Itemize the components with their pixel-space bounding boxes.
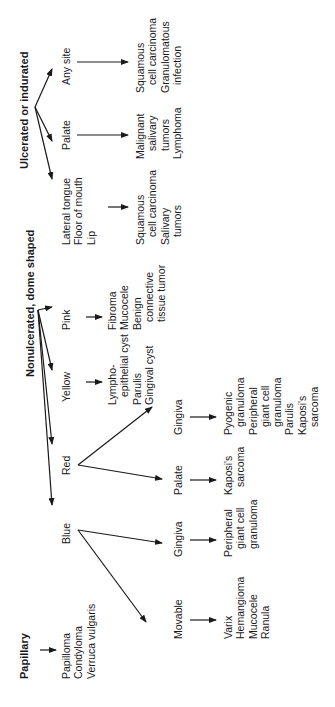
diagnosis-item: Fibroma bbox=[106, 265, 118, 330]
pink-category: Pink bbox=[60, 310, 72, 330]
movable-subcategory: Movable bbox=[172, 599, 184, 639]
diagnosis-item: Peripheral bbox=[247, 377, 259, 435]
any-site-diagnosis-list: Squamous cell carcinoma Granulomatous in… bbox=[134, 18, 183, 93]
diagnosis-item: Benign bbox=[131, 265, 143, 330]
diagnosis-item: Granulomatous bbox=[159, 18, 171, 93]
diagnosis-item: Pyogenic bbox=[222, 377, 234, 435]
diagnosis-item: Lymphoma bbox=[171, 107, 183, 159]
ulcerated-heading: Ulcerated or indurated bbox=[18, 52, 30, 169]
diagnosis-item: Verruca vulgaris bbox=[85, 604, 97, 679]
red-palate-diagnosis-list: Kaposi's sarcoma bbox=[222, 447, 247, 495]
red-gingiva-subcategory: Gingiva bbox=[172, 399, 184, 435]
papillary-heading: Papillary bbox=[18, 633, 30, 679]
site-item: Lip bbox=[85, 177, 97, 245]
diagnosis-item: Mucocele bbox=[118, 265, 130, 330]
diagnosis-item: Malignant bbox=[134, 107, 146, 159]
diagnosis-item: Lympho- bbox=[106, 334, 118, 405]
diagnosis-item: tissue tumor bbox=[155, 265, 167, 330]
nonulcerated-heading: Nonulcerated, dome shaped bbox=[24, 230, 36, 377]
lateral-tongue-diagnosis-list: Squamous cell carcinoma Salivary tumors bbox=[134, 170, 183, 245]
diagnosis-item: Gingival cyst bbox=[143, 334, 155, 405]
diagnosis-item: Parulis bbox=[283, 377, 295, 435]
diagnosis-item: cell carcinoma bbox=[146, 170, 158, 245]
blue-gingiva-diagnosis-list: Peripheral giant cell granuloma bbox=[222, 499, 259, 557]
ulcerated-palate-site: Palate bbox=[60, 120, 72, 150]
diagnosis-item: Varix bbox=[222, 577, 234, 639]
diagnosis-item: granuloma bbox=[234, 377, 246, 435]
diagnosis-item: sarcoma bbox=[308, 377, 320, 435]
diagnosis-item: Hemangioma bbox=[234, 577, 246, 639]
diagnosis-item: salivary bbox=[146, 107, 158, 159]
differential-diagnosis-flowchart: Papillary Papilloma Condyloma Verruca vu… bbox=[0, 0, 335, 707]
diagnosis-item: Ranula bbox=[259, 577, 271, 639]
diagnosis-item: Condyloma bbox=[72, 604, 84, 679]
blue-gingiva-subcategory: Gingiva bbox=[172, 521, 184, 557]
diagnosis-item: infection bbox=[171, 18, 183, 93]
blue-category: Blue bbox=[60, 523, 72, 544]
pink-diagnosis-list: Fibroma Mucocele Benign connective tissu… bbox=[106, 265, 167, 330]
diagnosis-item: cell carcinoma bbox=[146, 18, 158, 93]
diagnosis-item: Squamous bbox=[134, 18, 146, 93]
red-gingiva-diagnosis-list: Pyogenic granuloma Peripheral giant cell… bbox=[222, 377, 320, 435]
movable-diagnosis-list: Varix Hemangioma Mucocele Ranula bbox=[222, 577, 271, 639]
ulcerated-palate-diagnosis-list: Malignant salivary tumors Lymphoma bbox=[134, 107, 183, 159]
diagnosis-item: giant cell bbox=[259, 377, 271, 435]
diagnosis-item: Parulis bbox=[131, 334, 143, 405]
diagnosis-item: connective bbox=[143, 265, 155, 330]
any-site: Any site bbox=[60, 48, 72, 85]
site-item: Floor of mouth bbox=[72, 177, 84, 245]
site-item: Lateral tongue bbox=[60, 177, 72, 245]
diagnosis-item: giant cell bbox=[234, 499, 246, 557]
diagnosis-item: Mucocele bbox=[247, 577, 259, 639]
diagnosis-item: tumors bbox=[159, 107, 171, 159]
red-category: Red bbox=[60, 456, 72, 475]
diagnosis-item: epithelial cyst bbox=[118, 334, 130, 405]
diagnosis-item: Papilloma bbox=[60, 604, 72, 679]
diagnosis-item: Salivary bbox=[159, 170, 171, 245]
connector-arrows bbox=[0, 0, 335, 707]
diagnosis-item: Kaposi's bbox=[296, 377, 308, 435]
diagnosis-item: granuloma bbox=[271, 377, 283, 435]
diagnosis-item: granuloma bbox=[247, 499, 259, 557]
diagnosis-item: Squamous bbox=[134, 170, 146, 245]
yellow-diagnosis-list: Lympho- epithelial cyst Parulis Gingival… bbox=[106, 334, 155, 405]
papillary-diagnosis-list: Papilloma Condyloma Verruca vulgaris bbox=[60, 604, 97, 679]
red-palate-subcategory: Palate bbox=[172, 465, 184, 495]
diagnosis-item: tumors bbox=[171, 170, 183, 245]
diagnosis-item: Kaposi's bbox=[222, 447, 234, 495]
diagnosis-item: sarcoma bbox=[234, 447, 246, 495]
diagnosis-item: Peripheral bbox=[222, 499, 234, 557]
lateral-tongue-site-list: Lateral tongue Floor of mouth Lip bbox=[60, 177, 97, 245]
yellow-category: Yellow bbox=[60, 372, 72, 402]
